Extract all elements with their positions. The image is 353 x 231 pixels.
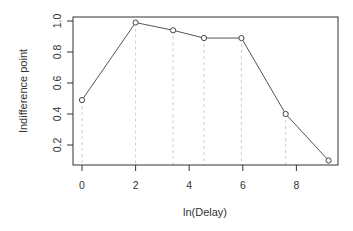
drop-lines [82,23,329,165]
y-axis: 0.20.40.60.81.0 [51,14,73,153]
x-tick-label: 2 [133,179,139,191]
y-tick-label: 0.2 [51,138,63,153]
x-tick-label: 8 [293,179,299,191]
data-point [201,35,206,40]
y-tick-label: 1.0 [51,14,63,29]
y-tick-label: 0.8 [51,45,63,60]
y-tick-label: 0.4 [51,107,63,122]
data-point [326,158,331,163]
y-axis-title: Indifference point [17,49,29,133]
data-point [79,97,84,102]
data-point [239,35,244,40]
data-point [283,111,288,116]
x-tick-label: 4 [186,179,192,191]
x-axis-title: ln(Delay) [183,206,227,218]
data-point [133,20,138,25]
data-point [171,28,176,33]
line-chart: 0.20.40.60.81.0 02468 ln(Delay) Indiffer… [0,0,353,231]
y-tick-label: 0.6 [51,76,63,91]
x-axis: 02468 [79,165,299,191]
x-tick-label: 6 [240,179,246,191]
x-tick-label: 0 [79,179,85,191]
series-line [82,23,329,161]
data-markers [79,20,331,163]
